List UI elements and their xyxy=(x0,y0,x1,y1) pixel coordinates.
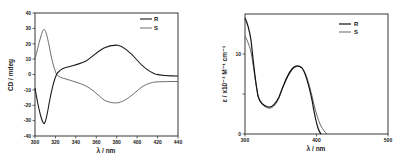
tick-label: 0 xyxy=(28,71,31,77)
tick-label: -10 xyxy=(24,87,31,93)
tick-label: 20 xyxy=(25,41,31,47)
legend-label-s: S xyxy=(354,29,358,35)
absorption-series-r-line xyxy=(245,18,321,134)
tick-label: 300 xyxy=(31,139,40,145)
tick-label: 0 xyxy=(238,131,241,137)
absorption-legend: R S xyxy=(339,21,359,35)
tick-label: 10 xyxy=(235,51,241,57)
absorption-chart: 10 0 300 400 500 λ / nm ε / x10⁻³ M⁻¹ cm… xyxy=(221,14,392,152)
absorption-series-s-line xyxy=(245,36,327,134)
tick-label: 500 xyxy=(384,137,393,143)
tick-label: 340 xyxy=(72,139,81,145)
tick-label: 400 xyxy=(312,137,321,143)
cd-chart: 40 30 20 10 0 -10 -20 -30 -40 300 320 34… xyxy=(7,10,182,154)
tick-label: 30 xyxy=(25,25,31,31)
tick-label: 10 xyxy=(25,56,31,62)
tick-label: 440 xyxy=(174,139,183,145)
absorption-y-axis-label: ε / x10⁻³ M⁻¹ cm⁻¹ xyxy=(221,46,228,102)
tick-label: 380 xyxy=(113,139,122,145)
tick-label: 400 xyxy=(133,139,142,145)
legend-label-r: R xyxy=(354,21,359,27)
cd-y-axis-label: CD / mdeg xyxy=(7,59,15,91)
tick-label: 40 xyxy=(25,10,31,16)
tick-label: -20 xyxy=(24,102,31,108)
tick-label: 420 xyxy=(153,139,162,145)
cd-legend: R S xyxy=(140,16,159,31)
absorption-plot-frame xyxy=(245,14,388,134)
legend-label-r: R xyxy=(154,16,159,22)
cd-y-tick-labels: 40 30 20 10 0 -10 -20 -30 -40 xyxy=(24,10,31,139)
tick-label: 320 xyxy=(51,139,60,145)
absorption-x-axis-label: λ / nm xyxy=(307,145,326,152)
cd-x-tick-labels: 300 320 340 360 380 400 420 440 xyxy=(31,139,183,145)
tick-label: 360 xyxy=(92,139,101,145)
tick-label: 300 xyxy=(241,137,250,143)
cd-x-axis-label: λ / nm xyxy=(97,147,116,154)
legend-label-s: S xyxy=(154,25,158,31)
cd-series-r-line xyxy=(35,45,178,123)
cd-series-s-line xyxy=(35,29,178,103)
tick-label: -30 xyxy=(24,117,31,123)
